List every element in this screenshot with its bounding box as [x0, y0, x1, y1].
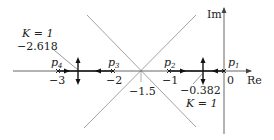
breakaway-label-right-value: −0.382 — [180, 84, 221, 97]
pole-label-p4: p4 — [51, 56, 63, 70]
breakaway-label-left-gain: K = 1 — [21, 27, 53, 40]
breakaway-label-right-gain: K = 1 — [185, 97, 217, 110]
tick-label-minus-2: −2 — [106, 74, 122, 87]
locus-arrow-right-icon — [180, 69, 186, 74]
pole-label-p2: p2 — [164, 56, 176, 70]
root-locus-diagram: p1 p2 p3 p4 0 −1 −2 −3 −1.5 Re Im −0.382… — [0, 0, 274, 140]
tick-label-0: 0 — [227, 74, 234, 87]
branch-arrow-up-icon — [201, 57, 206, 63]
locus-arrow-left-icon — [212, 69, 218, 74]
breakaway-label-left-value: −2.618 — [17, 40, 58, 53]
leader-line — [193, 73, 203, 84]
tick-label-minus-1: −1 — [162, 74, 178, 87]
branch-arrow-down-icon — [76, 79, 81, 85]
imag-axis-label: Im — [207, 8, 222, 21]
tick-label-minus-3: −3 — [49, 74, 65, 87]
pole-label-p1: p1 — [228, 56, 240, 70]
centroid-label: −1.5 — [129, 85, 156, 98]
branch-arrow-up-icon — [76, 57, 81, 63]
locus-arrow-left-icon — [95, 69, 101, 74]
locus-arrow-right-icon — [64, 69, 70, 74]
real-axis-label: Re — [247, 74, 262, 87]
pole-label-p3: p3 — [108, 56, 120, 70]
